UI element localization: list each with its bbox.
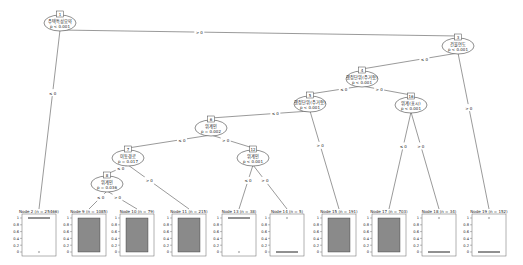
- y-tick: 0.6: [163, 230, 169, 234]
- y-tick: 0.2: [163, 244, 169, 248]
- terminal-node-13: Node 13 (n = 38)10.80.60.40.20: [213, 209, 257, 257]
- y-tick: 0: [115, 250, 118, 254]
- inner-node-16: 16위계(표시)p < 0.001: [395, 93, 427, 113]
- y-tick: 0.8: [213, 223, 219, 227]
- y-tick: 0.6: [111, 230, 117, 234]
- y-tick: 0: [167, 250, 170, 254]
- y-tick: 0.4: [213, 237, 219, 241]
- edge-label: > 0: [222, 138, 230, 143]
- p-value: p < 0.001: [300, 105, 320, 110]
- y-tick: 0: [317, 250, 320, 254]
- inner-node-8: 8위계인p = 0.036: [91, 172, 123, 192]
- y-tick: 0.8: [63, 223, 69, 227]
- y-tick: 0: [467, 250, 470, 254]
- y-tick: 0.2: [111, 244, 117, 248]
- terminal-node-2: Node 2 (n = 25466)10.80.60.40.20: [13, 209, 59, 257]
- inner-node-7: 7이동경로p = 0.017: [112, 146, 144, 166]
- edge-label: ≤ 0: [49, 91, 57, 96]
- edge-label: ≤ 0: [245, 178, 253, 183]
- edge-line: [253, 165, 287, 209]
- terminal-title: Node 18 (n = 34): [422, 209, 457, 214]
- edge-label: ≤ 0: [400, 144, 408, 149]
- p-value: p = 0.002: [201, 129, 221, 134]
- y-tick: 0.6: [413, 230, 419, 234]
- node-id: 5: [309, 93, 312, 98]
- node-id: 1: [59, 12, 62, 17]
- edge-label: ≤ 0: [117, 166, 125, 171]
- y-tick: 1: [217, 216, 219, 220]
- p-value: p < 0.001: [448, 47, 468, 52]
- node-id: 6: [210, 117, 213, 122]
- node-id: 8: [106, 173, 109, 178]
- y-tick: 0.6: [313, 230, 319, 234]
- y-tick: 0.6: [463, 230, 469, 234]
- edge-line: [362, 86, 411, 95]
- y-tick: 1: [17, 216, 19, 220]
- y-tick: 0.4: [163, 237, 169, 241]
- edge-line: [389, 112, 411, 209]
- y-tick: 0.8: [13, 223, 19, 227]
- y-tick: 0.4: [261, 237, 267, 241]
- node-id: 12: [250, 147, 256, 152]
- terminal-node-10: Node 10 (n = 79)10.80.60.40.20: [111, 209, 155, 257]
- edge-label: ≤ 0: [421, 57, 429, 62]
- boxplot-box: [328, 218, 350, 252]
- p-value: p = 0.017: [118, 159, 138, 164]
- terminal-title: Node 17 (n = 703): [370, 209, 408, 214]
- y-tick: 0.8: [261, 223, 267, 227]
- edge-line: [310, 86, 362, 94]
- y-tick: 0.4: [413, 237, 419, 241]
- y-tick: 0.8: [413, 223, 419, 227]
- split-variable: 건물연도: [450, 41, 466, 47]
- edge-line: [39, 30, 60, 209]
- terminal-node-15: Node 15 (n = 191)10.80.60.40.20: [313, 209, 358, 257]
- y-tick: 0: [217, 250, 220, 254]
- y-tick: 0.6: [13, 230, 19, 234]
- y-tick: 0.8: [111, 223, 117, 227]
- edge-line: [362, 53, 458, 69]
- terminal-node-11: Node 11 (n = 215)10.80.60.40.20: [163, 209, 208, 257]
- y-tick: 0.2: [13, 244, 19, 248]
- y-tick: 0.2: [463, 244, 469, 248]
- y-tick: 0.2: [363, 244, 369, 248]
- y-tick: 0.6: [213, 230, 219, 234]
- inner-node-5: 5행정단위(주거형)p < 0.001: [294, 92, 326, 112]
- y-tick: 1: [417, 216, 419, 220]
- y-tick: 0.2: [213, 244, 219, 248]
- terminal-title: Node 2 (n = 25466): [19, 209, 59, 214]
- edge-line: [310, 111, 339, 209]
- y-tick: 0.4: [363, 237, 369, 241]
- edge-line: [458, 53, 489, 209]
- edge-line: [128, 165, 189, 209]
- terminal-node-9: Node 9 (n = 1085)10.80.60.40.20: [63, 209, 108, 257]
- y-tick: 0.4: [463, 237, 469, 241]
- terminal-node-14: Node 14 (n = 5)10.80.60.40.20: [261, 209, 304, 257]
- y-tick: 0: [367, 250, 370, 254]
- y-tick: 0: [417, 250, 420, 254]
- decision-tree: ≤ 0> 0≤ 0> 0≤ 0> 0≤ 0> 0≤ 0> 0≤ 0> 0≤ 0>…: [0, 0, 523, 265]
- terminal-node-19: Node 19 (n = 152)10.80.60.40.20: [463, 209, 508, 257]
- edge-label: > 0: [317, 143, 325, 148]
- y-tick: 0.2: [413, 244, 419, 248]
- edge-label: > 0: [261, 178, 269, 183]
- edge-line: [211, 111, 310, 118]
- node-id: 3: [457, 35, 460, 40]
- terminal-title: Node 11 (n = 215): [170, 209, 208, 214]
- inner-node-4: 4행정단위(주거형)p < 0.001: [346, 67, 378, 87]
- edge-line: [211, 135, 253, 148]
- p-value: p < 0.001: [50, 24, 70, 29]
- inner-node-12: 12위계인p < 0.001: [237, 146, 269, 166]
- p-value: p < 0.001: [401, 106, 421, 111]
- edge-label: > 0: [196, 30, 204, 35]
- y-tick: 0.6: [63, 230, 69, 234]
- edge-label: > 0: [146, 178, 154, 183]
- y-tick: 1: [167, 216, 169, 220]
- edge-label: ≤ 0: [340, 87, 348, 92]
- p-value: p = 0.036: [97, 185, 117, 190]
- y-tick: 0.2: [313, 244, 319, 248]
- edge-line: [60, 30, 458, 36]
- inner-node-1: 1주택특성요약p < 0.001: [44, 11, 76, 31]
- inner-node-3: 3건물연도p < 0.001: [442, 34, 474, 54]
- y-tick: 0.8: [363, 223, 369, 227]
- node-id: 7: [127, 147, 130, 152]
